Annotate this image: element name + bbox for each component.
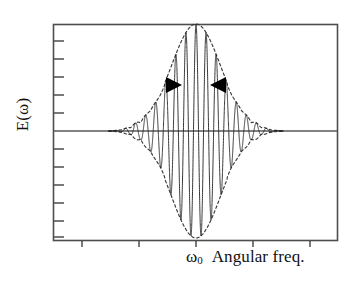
omega-symbol: ω bbox=[186, 247, 197, 266]
envelope-upper bbox=[109, 24, 284, 131]
x-axis-title: Angular freq. bbox=[212, 248, 305, 265]
y-axis-label: E(ω) bbox=[14, 80, 31, 150]
carrier-waveform bbox=[109, 24, 284, 236]
plot-frame bbox=[54, 25, 338, 241]
frame-rect bbox=[54, 25, 338, 241]
omega-subscript: 0 bbox=[197, 254, 203, 266]
envelope-lower bbox=[109, 131, 284, 238]
figure-container: E(ω) ω0 Angular freq. bbox=[0, 0, 358, 282]
spectrum-plot bbox=[0, 0, 358, 282]
omega-zero-label: ω0 bbox=[186, 248, 203, 265]
x-axis-label-group: ω0 Angular freq. bbox=[186, 248, 305, 265]
y-axis-ticks bbox=[54, 41, 64, 237]
